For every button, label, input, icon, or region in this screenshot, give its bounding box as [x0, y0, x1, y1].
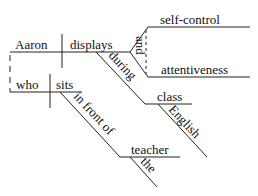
- word-self-control: self-control: [160, 12, 220, 27]
- word-aaron: Aaron: [15, 37, 48, 52]
- word-class: class: [157, 89, 182, 104]
- word-who: who: [16, 77, 38, 92]
- sentence-diagram: Aaron displays and self-control attentiv…: [0, 0, 258, 196]
- word-in-front-of: in front of: [71, 89, 118, 138]
- word-and: and: [133, 36, 148, 55]
- word-english: English: [166, 102, 204, 142]
- word-displays: displays: [70, 37, 113, 52]
- word-sits: sits: [56, 77, 73, 92]
- word-attentiveness: attentiveness: [161, 62, 228, 77]
